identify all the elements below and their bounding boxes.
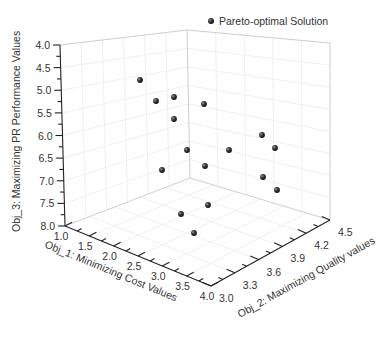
x-tick-label: 2.0	[102, 250, 117, 262]
y-tick-label: 4.2	[314, 239, 329, 251]
z-axis-title: Obj_3: Maximizing PR Performance Values	[10, 31, 22, 232]
pareto-3d-scatter-chart: 4.04.55.05.56.06.57.07.58.0 1.01.52.02.5…	[0, 0, 387, 337]
x-tick-label: 2.5	[127, 260, 142, 272]
y-tick-label: 4.5	[338, 226, 353, 238]
legend: Pareto-optimal Solution	[208, 15, 328, 27]
z-tick-label: 6.5	[39, 152, 54, 164]
z-tick-label: 6.0	[38, 130, 53, 142]
data-point	[260, 174, 266, 180]
z-tick-label: 4.5	[36, 62, 51, 74]
y-tick-label: 3.3	[243, 279, 258, 291]
z-axis: 4.04.55.05.56.06.57.07.58.0	[35, 39, 65, 232]
legend-marker-icon	[208, 18, 214, 24]
z-tick-label: 5.5	[37, 107, 52, 119]
z-tick-label: 5.0	[37, 84, 52, 96]
z-tick-label: 7.5	[40, 197, 55, 209]
z-tick-label: 7.0	[39, 175, 54, 187]
data-point	[191, 230, 197, 236]
data-point	[274, 187, 280, 193]
data-point	[226, 147, 232, 153]
data-point	[171, 116, 177, 122]
data-point	[171, 94, 177, 100]
x-tick-label: 4.0	[200, 290, 215, 302]
data-point	[137, 77, 143, 83]
y-tick-label: 3.0	[219, 292, 234, 304]
z-tick-label: 4.0	[35, 39, 50, 51]
grid-back-walls	[61, 33, 330, 277]
data-points	[137, 77, 280, 236]
data-point	[159, 167, 165, 173]
data-point	[178, 211, 184, 217]
data-point	[205, 202, 211, 208]
x-tick-label: 3.5	[175, 280, 190, 292]
y-tick-label: 3.6	[267, 266, 282, 278]
data-point	[184, 147, 190, 153]
data-point	[201, 101, 207, 107]
x-tick-label: 3.0	[151, 270, 166, 282]
legend-label: Pareto-optimal Solution	[219, 15, 328, 27]
data-point	[153, 98, 159, 104]
y-axis-title: Obj_2: Maximizing Quality values	[235, 234, 377, 320]
y-tick-label: 3.9	[290, 252, 305, 264]
box-frame	[60, 30, 330, 226]
data-point	[259, 132, 265, 138]
data-point	[202, 163, 208, 169]
data-point	[272, 145, 278, 151]
